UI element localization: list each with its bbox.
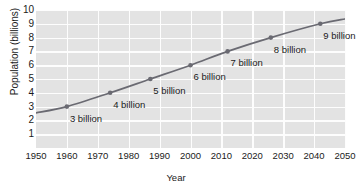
y-axis-tick-7: 7 <box>14 46 34 56</box>
data-label-7-billion: 7 billion <box>231 57 263 68</box>
y-axis-tick-10: 10 <box>14 5 34 15</box>
data-label-5-billion: 5 billion <box>153 85 185 96</box>
data-label-9-billion: 9 billion <box>323 30 355 41</box>
y-axis-tick-3: 3 <box>14 102 34 112</box>
y-axis-tick-8: 8 <box>14 33 34 43</box>
y-axis-tick-2: 2 <box>14 115 34 125</box>
data-label-8-billion: 8 billion <box>274 44 306 55</box>
data-point-marker-9-billion <box>318 22 323 27</box>
y-axis-tick-9: 9 <box>14 19 34 29</box>
data-point-marker-5-billion <box>148 77 153 82</box>
plot-area: 3 billion4 billion5 billion6 billion7 bi… <box>36 10 345 148</box>
data-label-4-billion: 4 billion <box>113 99 145 110</box>
data-point-marker-8-billion <box>269 35 274 40</box>
x-axis-title: Year <box>0 172 352 183</box>
data-point-marker-4-billion <box>108 91 113 96</box>
data-label-6-billion: 6 billion <box>194 71 226 82</box>
data-label-3-billion: 3 billion <box>70 113 102 124</box>
y-axis-tick-1: 1 <box>14 129 34 139</box>
y-axis-tick-5: 5 <box>14 74 34 84</box>
y-axis-tick-6: 6 <box>14 60 34 70</box>
data-point-marker-6-billion <box>188 63 193 68</box>
y-axis-tick-4: 4 <box>14 88 34 98</box>
series-line-group <box>36 10 345 148</box>
data-point-marker-3-billion <box>65 104 70 109</box>
data-point-marker-7-billion <box>225 49 230 54</box>
x-axis-tick-2050: 2050 <box>325 151 360 161</box>
